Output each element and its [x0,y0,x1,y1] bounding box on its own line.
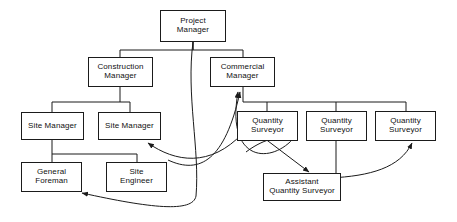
node-quantity-surveyor-2[interactable]: Quantity Surveyor [306,111,367,141]
node-label-project-manager: Project Manager [175,17,211,35]
node-label-site-manager-1: Site Manager [26,122,79,131]
node-quantity-surveyor-3[interactable]: Quantity Surveyor [375,111,436,141]
node-label-site-engineer: Site Engineer [118,168,155,186]
node-site-manager-1[interactable]: Site Manager [21,112,84,140]
node-label-assistant-quantity-surveyor: Assistant Quantity Surveyor [267,178,337,196]
connector-assistant-qs-to-qs-3 [330,143,412,178]
org-chart: Project ManagerConstruction ManagerComme… [0,0,457,222]
node-site-manager-2[interactable]: Site Manager [98,112,161,140]
node-site-engineer[interactable]: Site Engineer [106,162,167,192]
node-general-foreman[interactable]: General Foreman [21,162,82,192]
connector-site-manager-1-to-subordinates-trunk [52,140,137,162]
connector-construction-to-site-managers-trunk [52,87,120,112]
connector-site-engineer-area-to-commercial-manager-feedback [168,92,240,165]
node-project-manager[interactable]: Project Manager [160,10,226,42]
node-label-site-manager-2: Site Manager [103,122,156,131]
connector-construction-to-site-manager-2 [120,102,130,112]
node-label-commercial-manager: Commercial Manager [219,63,267,81]
node-commercial-manager[interactable]: Commercial Manager [210,57,275,87]
node-assistant-quantity-surveyor[interactable]: Assistant Quantity Surveyor [263,173,341,201]
connector-qs-1-to-assistant-qs [264,138,309,172]
connector-pm-to-construction-manager [120,42,193,57]
node-label-quantity-surveyor-3: Quantity Surveyor [387,117,424,135]
node-quantity-surveyor-1[interactable]: Quantity Surveyor [237,111,298,141]
node-label-quantity-surveyor-2: Quantity Surveyor [318,117,355,135]
node-label-construction-manager: Construction Manager [95,63,145,81]
node-label-quantity-surveyor-1: Quantity Surveyor [249,117,286,135]
node-construction-manager[interactable]: Construction Manager [88,57,153,87]
node-label-general-foreman: General Foreman [33,168,70,186]
connector-pm-to-commercial-manager [193,42,243,57]
